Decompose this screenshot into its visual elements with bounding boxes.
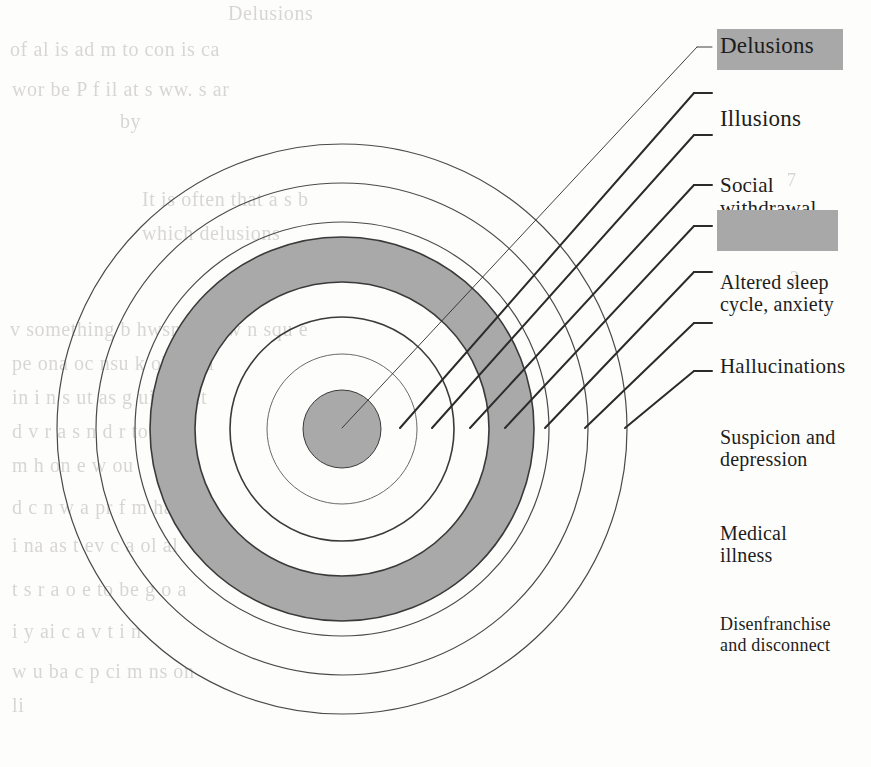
leader-line-illusions (400, 93, 694, 428)
leader-line-hallucinations (505, 226, 694, 428)
leader-line-medical-illness (585, 323, 694, 428)
leader-line-suspicion-depression (545, 272, 694, 428)
label-disenfranchise-disconnect: Disenfranchise and disconnect (720, 614, 871, 654)
label-hallucinations: Hallucinations (720, 355, 871, 379)
label-suspicion-depression: Suspicion and depression (720, 426, 871, 471)
label-altered-sleep: Altered sleep cycle, anxiety (720, 271, 871, 316)
label-column: DelusionsIllusionsSocial withdrawalAlter… (700, 0, 871, 767)
concentric-ring-diagram (0, 0, 700, 767)
leader-line-social-withdrawal (432, 135, 694, 428)
label-delusions: Delusions (720, 33, 871, 59)
label-illusions: Illusions (720, 106, 871, 132)
highlight-box-hallucinations (717, 210, 838, 251)
ring-group (57, 144, 627, 714)
ring-core-disc (303, 390, 381, 468)
figure-page: Delusionsof al is ad m to con is cawor b… (0, 0, 871, 767)
label-medical-illness: Medical illness (720, 522, 871, 567)
